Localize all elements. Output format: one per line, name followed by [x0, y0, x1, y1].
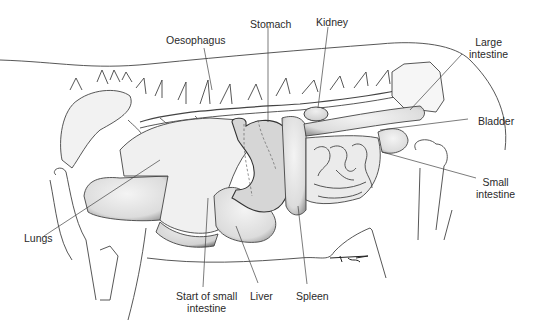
label-oesophagus: Oesophagus	[166, 34, 226, 46]
artist-signature	[330, 256, 368, 262]
label-large-intestine: Large intestine	[469, 36, 508, 60]
body-outline-rump	[470, 60, 506, 150]
lungs	[84, 176, 170, 221]
label-start-small-intestine-line1: Start of small	[176, 290, 237, 302]
label-large-intestine-line2: intestine	[469, 48, 508, 60]
anatomy-drawing	[0, 0, 533, 330]
spleen	[282, 117, 306, 215]
bladder	[378, 129, 408, 154]
small-intestine	[306, 136, 380, 204]
label-small-intestine-line1: Small	[476, 176, 515, 188]
label-small-intestine-line2: intestine	[476, 188, 515, 200]
body-outline-back	[0, 43, 470, 67]
label-small-intestine: Small intestine	[476, 176, 515, 200]
kidney	[304, 107, 328, 121]
label-kidney: Kidney	[316, 16, 348, 28]
pelvis	[392, 62, 444, 112]
label-large-intestine-line1: Large	[469, 36, 508, 48]
label-start-of-small-intestine: Start of small intestine	[176, 290, 237, 314]
label-lungs: Lungs	[24, 232, 53, 244]
label-stomach: Stomach	[250, 18, 291, 30]
label-bladder: Bladder	[478, 115, 514, 127]
hind-leg	[415, 140, 452, 240]
label-liver: Liver	[250, 290, 273, 302]
label-start-small-intestine-line2: intestine	[176, 302, 237, 314]
label-spleen: Spleen	[296, 290, 329, 302]
